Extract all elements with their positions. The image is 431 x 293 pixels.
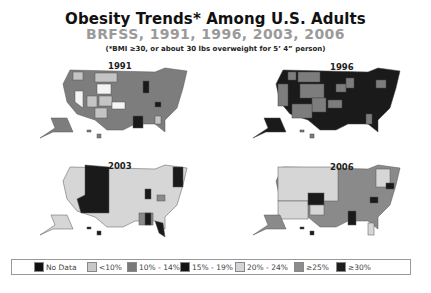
map-year-label: 2003 xyxy=(108,161,132,171)
legend: No Data <10% 10% - 14% 15% - 19% 20% - 2… xyxy=(11,259,411,275)
legend-item-ge30: ≥30% xyxy=(336,262,371,272)
legend-label: 20% - 24% xyxy=(247,263,288,272)
legend-swatch xyxy=(34,262,44,272)
legend-label: ≥25% xyxy=(306,263,329,272)
chart-subtitle: BRFSS, 1991, 1996, 2003, 2006 xyxy=(0,26,431,42)
us-map-1996 xyxy=(228,58,428,158)
legend-label: No Data xyxy=(46,263,77,272)
legend-item-10-14: 10% - 14% xyxy=(127,262,180,272)
legend-swatch xyxy=(235,262,245,272)
map-2006: 2006 xyxy=(228,155,428,255)
legend-item-20-24: 20% - 24% xyxy=(235,262,288,272)
legend-item-lt10: <10% xyxy=(87,262,122,272)
legend-item-15-19: 15% - 19% xyxy=(180,262,233,272)
map-1996: 1996 xyxy=(228,58,428,158)
map-1991: 1991 xyxy=(15,58,215,158)
legend-item-ge25: ≥25% xyxy=(294,262,329,272)
legend-swatch xyxy=(336,262,346,272)
legend-swatch xyxy=(87,262,97,272)
legend-swatch xyxy=(180,262,190,272)
legend-label: ≥30% xyxy=(348,263,371,272)
map-year-label: 1996 xyxy=(330,62,354,72)
legend-swatch xyxy=(127,262,137,272)
map-2003: 2003 xyxy=(15,155,215,255)
legend-label: 10% - 14% xyxy=(139,263,180,272)
legend-item-no-data: No Data xyxy=(34,262,77,272)
chart-footnote: (*BMI ≥30, or about 30 lbs overweight fo… xyxy=(0,45,431,53)
legend-swatch xyxy=(294,262,304,272)
us-map-1991 xyxy=(15,58,215,158)
legend-label: <10% xyxy=(99,263,122,272)
map-year-label: 2006 xyxy=(330,162,354,172)
map-year-label: 1991 xyxy=(108,61,132,71)
legend-label: 15% - 19% xyxy=(192,263,233,272)
us-map-2006 xyxy=(228,155,428,255)
